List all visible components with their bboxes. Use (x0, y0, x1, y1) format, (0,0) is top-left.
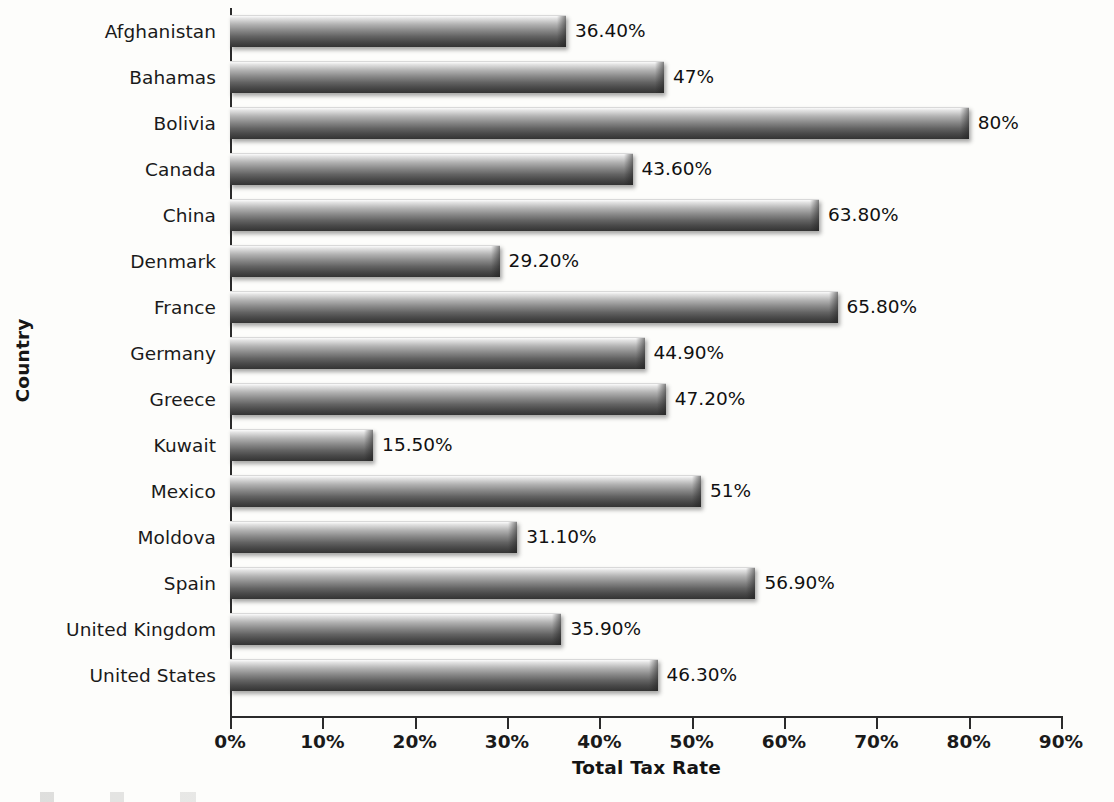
bar[interactable] (230, 245, 500, 277)
bar[interactable] (230, 291, 838, 323)
x-axis-tick-label: 20% (393, 731, 437, 752)
bar-row[interactable]: 44.90% (230, 330, 1061, 376)
y-axis-tick-label: United States (89, 652, 216, 698)
bar-end-shading (364, 430, 373, 461)
x-axis-tick-label: 0% (214, 731, 245, 752)
bar-value-label: 51% (701, 475, 751, 506)
bar-end-shading (655, 62, 664, 93)
scan-artifact (40, 792, 460, 802)
x-axis-tick (507, 718, 509, 729)
x-axis-tick-label: 90% (1039, 731, 1083, 752)
y-axis-title: Country (0, 0, 44, 720)
y-axis-tick-label: Bolivia (154, 100, 216, 146)
bar-value-label: 36.40% (566, 15, 646, 46)
bar[interactable] (230, 567, 755, 599)
y-axis-tick-label: Kuwait (154, 422, 216, 468)
bar-value-label: 65.80% (838, 291, 918, 322)
x-axis-tick-label: 40% (577, 731, 621, 752)
bar[interactable] (230, 107, 969, 139)
bar-end-shading (508, 522, 517, 553)
y-axis-tick-label: Denmark (130, 238, 216, 284)
x-axis-tick (415, 718, 417, 729)
bar[interactable] (230, 199, 819, 231)
y-axis-title-label: Country (12, 318, 33, 402)
bar-end-shading (636, 338, 645, 369)
bar[interactable] (230, 153, 633, 185)
bar-end-shading (810, 200, 819, 231)
bar-value-label: 35.90% (561, 613, 641, 644)
bar[interactable] (230, 61, 664, 93)
x-axis-tick (230, 718, 232, 729)
bar-row[interactable]: 47% (230, 54, 1061, 100)
x-axis-tick (599, 718, 601, 729)
bar-value-label: 46.30% (658, 659, 738, 690)
bar-end-shading (552, 614, 561, 645)
x-axis-tick-label: 30% (485, 731, 529, 752)
bar-row[interactable]: 47.20% (230, 376, 1061, 422)
bar[interactable] (230, 383, 666, 415)
bar[interactable] (230, 337, 645, 369)
x-axis-line (230, 716, 1063, 718)
bar[interactable] (230, 15, 566, 47)
bar-end-shading (692, 476, 701, 507)
x-axis-tick (784, 718, 786, 729)
bar[interactable] (230, 521, 517, 553)
bar-end-shading (657, 384, 666, 415)
bar-value-label: 47% (664, 61, 714, 92)
bar-end-shading (746, 568, 755, 599)
bar-value-label: 31.10% (517, 521, 597, 552)
bar-value-label: 47.20% (666, 383, 746, 414)
bar-end-shading (491, 246, 500, 277)
bar-row[interactable]: 46.30% (230, 652, 1061, 698)
y-axis-tick-label: Moldova (138, 514, 216, 560)
x-axis-tick-label: 10% (300, 731, 344, 752)
bar[interactable] (230, 613, 561, 645)
bar-value-label: 80% (969, 107, 1019, 138)
bar-row[interactable]: 31.10% (230, 514, 1061, 560)
y-axis-tick-label: Bahamas (129, 54, 216, 100)
y-axis-tick-label: France (154, 284, 216, 330)
bar-row[interactable]: 36.40% (230, 8, 1061, 54)
y-axis-tick-label: Greece (150, 376, 216, 422)
x-axis-tick-label: 50% (670, 731, 714, 752)
x-axis-tick (322, 718, 324, 729)
x-axis-tick (876, 718, 878, 729)
x-axis-tick-label: 70% (854, 731, 898, 752)
x-axis-tick (969, 718, 971, 729)
bar-row[interactable]: 65.80% (230, 284, 1061, 330)
bar-value-label: 15.50% (373, 429, 453, 460)
x-axis-tick (1061, 718, 1063, 729)
bar-end-shading (960, 108, 969, 139)
bar-row[interactable]: 29.20% (230, 238, 1061, 284)
bar-row[interactable]: 43.60% (230, 146, 1061, 192)
bar-row[interactable]: 51% (230, 468, 1061, 514)
y-axis-tick-label: United Kingdom (66, 606, 216, 652)
bar-chart-figure: Country AfghanistanBahamasBoliviaCanadaC… (0, 0, 1114, 802)
bar-value-label: 44.90% (645, 337, 725, 368)
y-axis-tick-label: Mexico (151, 468, 216, 514)
bar-end-shading (557, 16, 566, 47)
bar-value-label: 63.80% (819, 199, 899, 230)
y-axis-tick-label: Germany (130, 330, 216, 376)
bar[interactable] (230, 429, 373, 461)
bar-row[interactable]: 80% (230, 100, 1061, 146)
bar-end-shading (649, 660, 658, 691)
bar-value-label: 43.60% (633, 153, 713, 184)
x-axis-tick-label: 60% (762, 731, 806, 752)
x-axis-tick-label: 80% (947, 731, 991, 752)
bar-row[interactable]: 35.90% (230, 606, 1061, 652)
bar-end-shading (829, 292, 838, 323)
bar-value-label: 29.20% (500, 245, 580, 276)
x-axis-tick (692, 718, 694, 729)
bar[interactable] (230, 659, 658, 691)
bar[interactable] (230, 475, 701, 507)
bar-value-label: 56.90% (755, 567, 835, 598)
bar-row[interactable]: 63.80% (230, 192, 1061, 238)
bar-row[interactable]: 56.90% (230, 560, 1061, 606)
x-axis-title: Total Tax Rate (230, 757, 1063, 778)
y-axis-tick-label: Afghanistan (105, 8, 216, 54)
bar-row[interactable]: 15.50% (230, 422, 1061, 468)
y-axis-category-labels: AfghanistanBahamasBoliviaCanadaChinaDenm… (48, 0, 224, 716)
plot-area: 36.40%47%80%43.60%63.80%29.20%65.80%44.9… (230, 8, 1061, 716)
y-axis-tick-label: Spain (164, 560, 216, 606)
